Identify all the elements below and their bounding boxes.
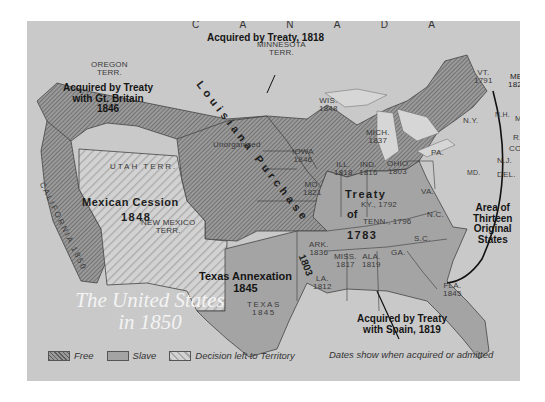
legend-item-free: Free [48,350,94,361]
ill-label: ILL.1818 [334,161,353,178]
unorganized-label: Unorganized [213,141,261,149]
new-mexico-terr-label: NEW MEXICOTERR. [141,219,195,236]
wis-label: WIS.1848 [319,97,338,114]
mich-label: MICH.1837 [366,129,390,146]
nh-label: N.H. [495,111,510,118]
mo-label: MO.1821 [303,181,322,198]
oregon-acquisition-label: Acquired by Treatywith Gt. Britain1846 [63,83,153,115]
vt-label: VT.1791 [474,69,493,86]
tenn-label: TENN., 1796 [363,218,411,226]
ri-label: R.I. [513,134,520,142]
pa-label: PA. [431,149,444,157]
ny-label: N.Y. [463,117,478,125]
ind-label: IND.1816 [359,161,378,178]
nc-label: N.C. [427,211,444,219]
legend-label-territory: Decision left to Territory [195,350,294,361]
legend: Free Slave Decision left to Territory [48,350,308,361]
md-label: MD. [467,169,480,176]
dates-note: Dates show when acquired or admitted [329,349,493,360]
ga-label: GA. [391,249,405,257]
legend-item-slave: Slave [107,350,157,361]
slave-swatch-icon [107,351,129,361]
conn-label: CONN. [509,145,520,153]
utah-terr-label: UTAH TERR. [110,163,177,171]
fla-label: FLA.1845 [443,282,462,299]
thirteen-states-label: Area ofThirteenOriginalStates [473,203,512,245]
mass-label: MASS. [515,115,520,123]
canada-label: C A N A D A [192,21,454,31]
ark-label: ARK.1836 [309,241,328,258]
oregon-terr-label: OREGONTERR. [91,61,128,78]
map-title: The United Statesin 1850 [55,289,245,333]
miss-label: MISS.1817 [334,253,357,270]
treaty-1783-year: 1783 [347,230,377,242]
treaty-label: Treaty [345,189,386,201]
va-label: VA. [421,188,434,196]
of-label: of [347,209,357,221]
territory-swatch-icon [169,351,191,361]
sc-label: S.C. [414,235,430,243]
me-label: ME.1820 [508,73,520,90]
nj-label: N.J. [497,157,512,165]
legend-label-slave: Slave [133,350,157,361]
spain-treaty-label: Acquired by Treatywith Spain, 1819 [357,314,447,335]
free-swatch-icon [48,351,70,361]
minnesota-terr-label: MINNESOTATERR. [257,41,306,58]
ohio-label: OHIO1803 [387,160,408,177]
map-frame: C A N A D A Acquired by Treaty, 1818 ORE… [27,21,520,381]
treaty-1818-pointer-line [267,75,275,93]
legend-label-free: Free [74,350,94,361]
ala-label: ALA.1819 [362,253,381,270]
iowa-label: IOWA1846 [292,148,314,165]
la-label: LA.1812 [313,275,332,292]
del-label: DEL. [497,171,516,179]
mexican-cession-label: Mexican Cession [82,197,179,209]
legend-item-territory: Decision left to Territory [169,350,294,361]
texas-state-label: TEXAS1845 [247,301,281,318]
ky-label: KY., 1792 [361,201,397,209]
